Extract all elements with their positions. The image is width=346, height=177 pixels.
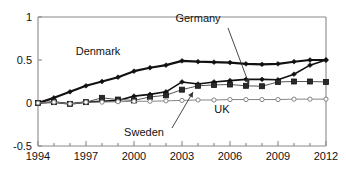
marker-uk-2002 [164, 99, 168, 103]
marker-uk-1995 [52, 100, 56, 104]
x-tick-label-0: 1994 [26, 150, 50, 162]
marker-uk-2012 [324, 97, 328, 101]
marker-uk-2001 [148, 99, 152, 103]
marker-uk-2003 [180, 98, 184, 102]
marker-sweden-2012 [324, 79, 329, 84]
marker-uk-2009 [276, 97, 280, 101]
marker-uk-1998 [100, 100, 104, 104]
marker-uk-1994 [36, 101, 40, 105]
y-tick-label-2: 0 [26, 97, 32, 109]
marker-sweden-1998 [100, 95, 105, 100]
marker-sweden-2011 [308, 79, 313, 84]
marker-uk-1999 [116, 100, 120, 104]
series-label-uk: UK [214, 103, 230, 115]
x-tick-label-4: 2006 [218, 150, 242, 162]
marker-sweden-2005 [212, 82, 217, 87]
marker-sweden-2010 [292, 79, 297, 84]
marker-uk-2004 [196, 98, 200, 102]
series-label-sweden: Sweden [124, 126, 164, 138]
x-tick-label-6: 2012 [314, 150, 338, 162]
marker-uk-2000 [132, 99, 136, 103]
y-tick-label-0: 1 [26, 11, 32, 23]
x-tick-label-2: 2000 [122, 150, 146, 162]
series-label-denmark: Denmark [76, 45, 121, 57]
marker-sweden-2009 [276, 79, 281, 84]
marker-sweden-2002 [164, 93, 169, 98]
y-tick-label-1: 0.5 [17, 54, 32, 66]
marker-uk-2011 [308, 97, 312, 101]
marker-sweden-2008 [260, 84, 265, 89]
x-tick-label-5: 2009 [266, 150, 290, 162]
marker-sweden-2004 [196, 83, 201, 88]
marker-uk-2008 [260, 97, 264, 101]
series-label-germany: Germany [175, 12, 221, 24]
marker-uk-2007 [244, 97, 248, 101]
marker-uk-2006 [228, 97, 232, 101]
marker-sweden-2003 [180, 87, 185, 92]
marker-uk-1997 [84, 100, 88, 104]
marker-uk-2010 [292, 97, 296, 101]
marker-uk-1996 [68, 102, 72, 106]
marker-sweden-2007 [244, 83, 249, 88]
x-tick-label-1: 1997 [74, 150, 98, 162]
marker-uk-2005 [212, 98, 216, 102]
line-chart: 10.50-0.51994199720002003200620092012 De… [0, 0, 346, 177]
chart-canvas: 10.50-0.51994199720002003200620092012 De… [0, 0, 346, 177]
x-tick-label-3: 2003 [170, 150, 194, 162]
marker-sweden-2006 [228, 82, 233, 87]
